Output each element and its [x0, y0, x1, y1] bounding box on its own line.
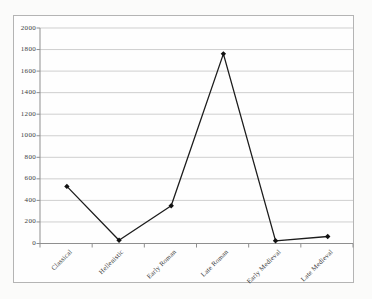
data-point-marker — [325, 234, 330, 239]
data-point-marker — [221, 51, 226, 56]
line-chart-svg — [0, 0, 372, 299]
series-line — [67, 54, 328, 241]
data-point-marker — [273, 238, 278, 243]
scanned-chart-page: 0200400600800100012001400160018002000 Cl… — [0, 0, 372, 299]
